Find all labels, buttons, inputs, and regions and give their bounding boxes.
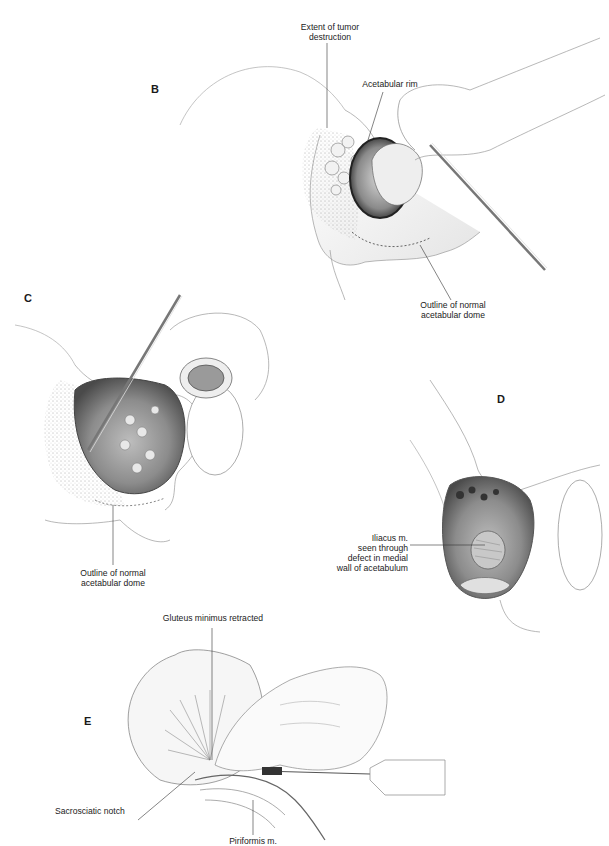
panel-b-art	[180, 38, 605, 300]
label-line: Outline of normal	[68, 568, 158, 578]
panel-letter-e: E	[84, 715, 91, 727]
label-outline-normal-dome-b: Outline of normal acetabular dome	[408, 300, 498, 320]
label-line: acetabular dome	[408, 310, 498, 320]
panel-letter-c: C	[24, 292, 32, 304]
panel-letter-b: B	[151, 83, 159, 95]
panel-c-art	[15, 295, 269, 565]
illustration-artwork	[0, 0, 609, 846]
panel-e-art	[128, 628, 445, 840]
label-line: acetabular dome	[68, 578, 158, 588]
label-gluteus-minimus: Gluteus minimus retracted	[148, 613, 278, 623]
label-line: wall of acetabulum	[318, 563, 408, 573]
label-tumor-extent: Extent of tumor destruction	[285, 22, 375, 42]
label-acetabular-rim: Acetabular rim	[350, 79, 430, 89]
panel-d-art	[410, 380, 602, 632]
label-line: destruction	[285, 32, 375, 42]
label-line: Outline of normal	[408, 300, 498, 310]
label-line: seen through	[318, 543, 408, 553]
label-line: Iliacus m.	[318, 533, 408, 543]
label-sacrosciatic-notch: Sacrosciatic notch	[55, 806, 125, 816]
label-line: defect in medial	[318, 553, 408, 563]
label-piriformis: Piriformis m.	[220, 836, 286, 846]
panel-letter-d: D	[497, 393, 505, 405]
label-iliacus: Iliacus m. seen through defect in medial…	[318, 533, 408, 573]
label-line: Extent of tumor	[285, 22, 375, 32]
label-outline-normal-dome-c: Outline of normal acetabular dome	[68, 568, 158, 588]
